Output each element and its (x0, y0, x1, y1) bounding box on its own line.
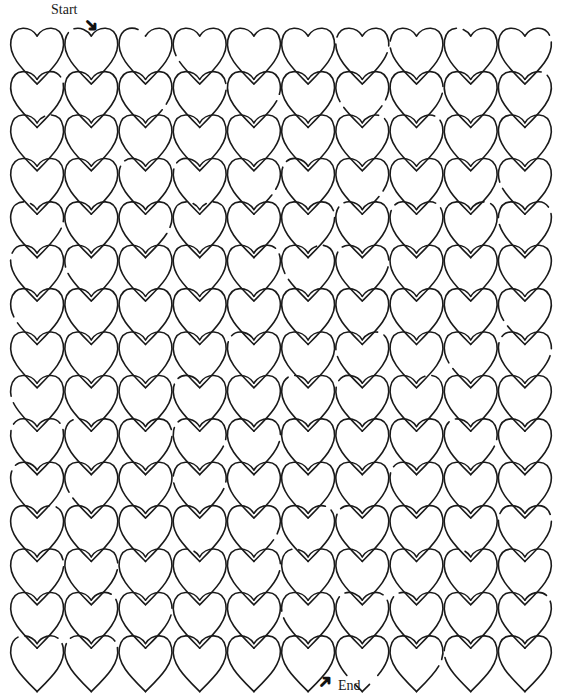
maze-heart (390, 332, 443, 388)
maze-heart (11, 462, 64, 518)
maze-heart (336, 72, 389, 128)
maze-heart (498, 462, 551, 518)
maze-heart (65, 158, 118, 214)
maze-heart (119, 28, 172, 84)
maze-heart (227, 375, 280, 431)
maze-heart (227, 506, 280, 562)
maze-heart (336, 28, 389, 84)
maze-heart (498, 158, 551, 214)
maze-heart (119, 592, 172, 648)
maze-heart (444, 158, 497, 214)
end-label: End (338, 678, 361, 694)
maze-heart (390, 549, 443, 605)
maze-heart (390, 506, 443, 562)
maze-heart (65, 549, 118, 605)
maze-heart (119, 332, 172, 388)
maze-heart (173, 289, 226, 345)
maze-heart (11, 202, 64, 258)
maze-heart (227, 158, 280, 214)
maze-heart (173, 158, 226, 214)
maze-heart (498, 375, 551, 431)
maze-heart (444, 115, 497, 171)
maze-heart (173, 332, 226, 388)
maze-heart (173, 115, 226, 171)
maze-heart (336, 462, 389, 518)
maze-heart (498, 332, 551, 388)
maze-heart (119, 245, 172, 301)
maze-heart (336, 592, 389, 648)
maze-heart (336, 375, 389, 431)
maze-heart (336, 115, 389, 171)
maze-heart (65, 636, 118, 692)
maze-heart (336, 419, 389, 475)
maze-heart (498, 245, 551, 301)
maze-heart (11, 115, 64, 171)
maze-heart (119, 549, 172, 605)
maze-heart (390, 72, 443, 128)
maze-heart (11, 592, 64, 648)
maze-heart (227, 332, 280, 388)
maze-heart (336, 158, 389, 214)
maze-heart (173, 549, 226, 605)
maze-heart (227, 115, 280, 171)
maze-heart (390, 462, 443, 518)
maze-heart (65, 462, 118, 518)
heart-maze[interactable] (0, 0, 578, 699)
maze-heart (65, 592, 118, 648)
maze-heart (11, 245, 64, 301)
maze-heart (282, 158, 335, 214)
maze-heart (11, 28, 64, 84)
maze-heart (227, 72, 280, 128)
maze-heart (173, 202, 226, 258)
maze-heart (498, 115, 551, 171)
maze-heart (173, 72, 226, 128)
maze-heart (173, 245, 226, 301)
maze-heart (498, 28, 551, 84)
maze-heart (119, 375, 172, 431)
maze-heart (498, 72, 551, 128)
maze-heart (444, 549, 497, 605)
maze-heart (65, 28, 118, 84)
maze-heart (282, 506, 335, 562)
maze-heart (336, 289, 389, 345)
maze-heart (227, 289, 280, 345)
maze-heart (390, 289, 443, 345)
maze-heart (336, 506, 389, 562)
maze-heart (227, 245, 280, 301)
maze-heart (173, 506, 226, 562)
maze-heart (227, 202, 280, 258)
maze-heart (65, 115, 118, 171)
maze-heart (282, 375, 335, 431)
maze-heart (65, 202, 118, 258)
maze-heart (227, 419, 280, 475)
maze-heart (65, 289, 118, 345)
maze-heart (282, 28, 335, 84)
maze-heart (282, 202, 335, 258)
maze-heart (444, 462, 497, 518)
maze-heart (390, 592, 443, 648)
maze-heart (390, 375, 443, 431)
maze-heart (119, 462, 172, 518)
maze-heart (65, 506, 118, 562)
maze-heart (119, 419, 172, 475)
maze-heart (282, 289, 335, 345)
maze-heart (173, 636, 226, 692)
maze-heart (119, 636, 172, 692)
maze-heart (390, 115, 443, 171)
maze-heart (444, 289, 497, 345)
maze-heart (336, 332, 389, 388)
maze-heart (282, 332, 335, 388)
maze-heart (444, 375, 497, 431)
maze-heart (444, 202, 497, 258)
maze-heart (173, 375, 226, 431)
maze-heart (173, 28, 226, 84)
maze-heart (11, 419, 64, 475)
maze-heart (227, 549, 280, 605)
maze-heart (227, 636, 280, 692)
maze-heart (336, 202, 389, 258)
maze-heart (444, 636, 497, 692)
maze-heart (498, 419, 551, 475)
maze-heart (390, 636, 443, 692)
maze-heart (119, 202, 172, 258)
maze-heart (498, 636, 551, 692)
